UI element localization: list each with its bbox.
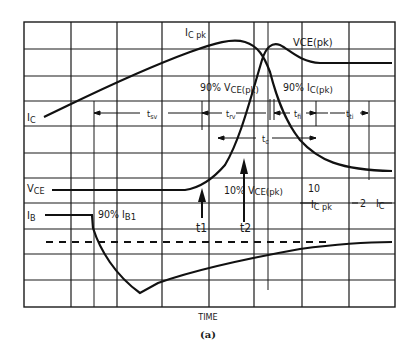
t1-label: t1 — [196, 221, 207, 235]
trv-label: trv — [226, 109, 236, 121]
ic-90pct-label: 90% IC(pk) — [283, 81, 333, 95]
ib-label: IB — [27, 209, 35, 223]
x-axis-label: TIME — [197, 312, 217, 322]
t2-label: t2 — [240, 221, 251, 235]
ic-label: IC — [27, 111, 36, 125]
vce-10pct-label: 10% VCE(pk) — [224, 184, 283, 197]
vce-pk-label: VCE(pk) — [293, 36, 333, 49]
ib-90pct-label: 90% IB1 — [98, 208, 136, 222]
ic-pk-label: IC pk — [185, 26, 206, 40]
t1-arrow-head — [198, 188, 206, 202]
ic-pk-over-10-denominator: IC pk — [311, 198, 332, 212]
vce-curve — [52, 44, 392, 190]
switching-waveform-chart: IC IC pk VCE(pk) 90% VCE(pk) 90% IC(pk) … — [0, 0, 416, 359]
vce-label: VCE — [27, 182, 45, 196]
ic-over-2-denominator: 2 — [360, 197, 366, 209]
ic-over-2-label: IC — [376, 197, 385, 211]
curves — [44, 41, 392, 293]
tsv-label: tsv — [147, 109, 157, 121]
tfi-label: tfi — [294, 109, 301, 121]
figure-caption: (a) — [200, 329, 216, 340]
ic-pk-over-10-numerator: 10 — [308, 182, 320, 194]
vce-90pct-label: 90% VCE(pk) — [200, 81, 259, 95]
t2-arrow-head — [240, 158, 248, 174]
tti-label: tti — [346, 109, 354, 121]
ic-curve — [44, 41, 392, 171]
